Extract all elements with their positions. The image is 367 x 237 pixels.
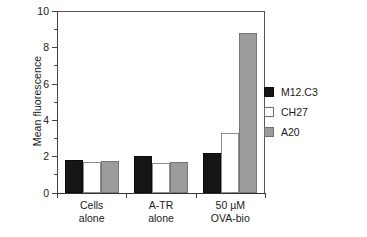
x-axis-tick xyxy=(126,193,127,198)
y-axis-tick-label: 10 xyxy=(3,5,49,17)
legend-item-label: M12.C3 xyxy=(281,86,318,98)
y-axis-tick-label: 4 xyxy=(3,114,49,126)
legend-item-label: A20 xyxy=(281,126,300,138)
legend-swatch-icon xyxy=(264,127,274,137)
x-axis-group-label-line: OVA-bio xyxy=(196,212,265,225)
bar xyxy=(170,162,188,193)
x-axis-tick xyxy=(265,193,266,198)
y-axis-tick-label: 8 xyxy=(3,41,49,53)
legend-item: M12.C3 xyxy=(264,84,318,100)
x-axis-group-label-line: Cells xyxy=(57,199,126,212)
x-axis-group-label-line: A-TR xyxy=(126,199,195,212)
x-axis-line xyxy=(57,193,265,194)
y-axis-tick-label: 0 xyxy=(3,187,49,199)
legend-item-label: CH27 xyxy=(281,106,308,118)
bar xyxy=(239,33,257,193)
x-axis-group-label: A-TRalone xyxy=(126,199,195,224)
bar xyxy=(152,163,170,193)
x-axis-group-label-line: 50 µM xyxy=(196,199,265,212)
legend-swatch-icon xyxy=(264,107,274,117)
bar xyxy=(221,133,239,193)
y-axis-tick-label: 2 xyxy=(3,150,49,162)
bar xyxy=(134,156,152,192)
x-axis-group-label: 50 µMOVA-bio xyxy=(196,199,265,224)
legend-item: A20 xyxy=(264,124,318,140)
bars-layer xyxy=(57,11,265,193)
bar xyxy=(101,161,119,192)
bar xyxy=(83,162,101,193)
legend: M12.C3CH27A20 xyxy=(264,84,318,144)
x-axis-group-label: Cellsalone xyxy=(57,199,126,224)
bar xyxy=(203,153,221,192)
legend-item: CH27 xyxy=(264,104,318,120)
bar-chart: Mean fluorescence 0246810 CellsaloneA-TR… xyxy=(0,0,367,237)
x-axis-group-label-line: alone xyxy=(57,212,126,225)
x-axis-group-label-line: alone xyxy=(126,212,195,225)
x-axis-tick xyxy=(57,193,58,198)
bar xyxy=(65,160,83,193)
x-axis-tick xyxy=(196,193,197,198)
y-axis-tick-label: 6 xyxy=(3,78,49,90)
legend-swatch-icon xyxy=(264,87,274,97)
